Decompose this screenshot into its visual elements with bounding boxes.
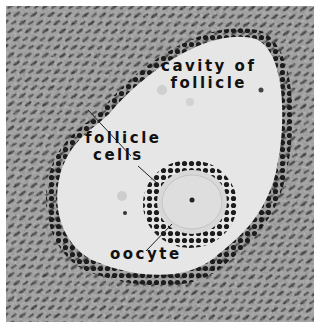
micrograph: cavity of follicle follicle cells oocyte (6, 6, 314, 322)
tissue-image (6, 6, 314, 322)
label-cavity-line2: follicle (161, 75, 256, 92)
label-follicle-cells-line1: follicle (85, 130, 161, 147)
label-cavity-line1: cavity of (161, 58, 256, 75)
label-follicle-cells: follicle cells (85, 130, 161, 164)
label-follicle-cells-line2: cells (85, 147, 161, 164)
label-cavity-of-follicle: cavity of follicle (161, 58, 256, 92)
label-oocyte: oocyte (110, 246, 182, 263)
